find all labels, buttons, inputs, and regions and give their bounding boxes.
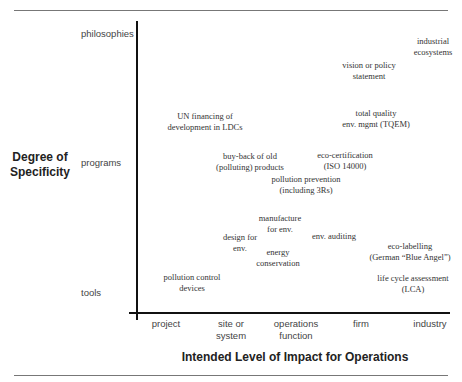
y-axis-title-line1: Degree of: [10, 150, 70, 165]
y-level-tools: tools: [81, 287, 101, 298]
item-line1: pollution prevention: [262, 174, 350, 185]
item-vision-policy: vision or policy statement: [332, 60, 406, 82]
item-line2: ecosystems: [403, 47, 462, 58]
item-line2: devices: [150, 283, 234, 294]
item-energy-conservation: energy conservation: [248, 247, 308, 269]
item-line2: development in LDCs: [160, 122, 250, 133]
item-line1: eco-certification: [305, 150, 385, 161]
item-tqem: total quality env. mgmt (TQEM): [336, 108, 416, 130]
x-level-site-or-system: site or system: [206, 318, 256, 342]
y-level-programs: programs: [81, 157, 121, 168]
x-axis-line: [129, 312, 450, 314]
item-line1: pollution control: [150, 272, 234, 283]
item-buy-back: buy-back of old (polluting) products: [205, 151, 295, 173]
x-level-firm: firm: [346, 318, 376, 330]
x-level-operations-line1: operations: [268, 318, 324, 330]
y-axis-line: [136, 21, 138, 320]
x-level-firm-label: firm: [346, 318, 376, 330]
x-level-project: project: [146, 318, 186, 330]
item-line1: life cycle assessment: [368, 273, 458, 284]
item-line2: statement: [332, 71, 406, 82]
x-axis-title: Intended Level of Impact for Operations: [160, 350, 430, 365]
bottom-rule: [14, 375, 448, 376]
item-line1: eco-labelling: [362, 241, 458, 252]
y-axis-title-line2: Specificity: [10, 165, 70, 180]
item-line1: total quality: [336, 108, 416, 119]
item-env-auditing: env. auditing: [304, 231, 364, 242]
item-line1: env. auditing: [304, 231, 364, 242]
item-line2: (including 3Rs): [262, 185, 350, 196]
item-lca: life cycle assessment (LCA): [368, 273, 458, 295]
item-line1: UN financing of: [160, 111, 250, 122]
x-level-site-line2: system: [206, 330, 256, 342]
item-pollution-prevention: pollution prevention (including 3Rs): [262, 174, 350, 196]
item-line2: (polluting) products: [205, 162, 295, 173]
x-level-site-line1: site or: [206, 318, 256, 330]
x-level-operations-line2: function: [268, 330, 324, 342]
item-eco-certification: eco-certification (ISO 14000): [305, 150, 385, 172]
item-line1: energy: [248, 247, 308, 258]
item-line2: (LCA): [368, 284, 458, 295]
x-level-industry: industry: [408, 318, 452, 330]
x-level-operations-function: operations function: [268, 318, 324, 342]
item-eco-labelling: eco-labelling (German “Blue Angel”): [362, 241, 458, 263]
x-level-project-label: project: [146, 318, 186, 330]
item-line1: manufacture: [250, 213, 310, 224]
x-level-industry-label: industry: [408, 318, 452, 330]
item-line1: industrial: [403, 36, 462, 47]
item-line1: buy-back of old: [205, 151, 295, 162]
top-rule: [14, 10, 448, 11]
item-line2: env. mgmt (TQEM): [336, 119, 416, 130]
y-level-philosophies: philosophies: [81, 28, 134, 39]
item-line1: vision or policy: [332, 60, 406, 71]
item-line2: conservation: [248, 258, 308, 269]
y-axis-title: Degree of Specificity: [10, 150, 70, 180]
item-line1: design for: [215, 232, 265, 243]
item-pollution-control: pollution control devices: [150, 272, 234, 294]
item-line2: (ISO 14000): [305, 161, 385, 172]
item-industrial-ecosystems: industrial ecosystems: [403, 36, 462, 58]
item-un-financing: UN financing of development in LDCs: [160, 111, 250, 133]
item-line2: (German “Blue Angel”): [362, 252, 458, 263]
